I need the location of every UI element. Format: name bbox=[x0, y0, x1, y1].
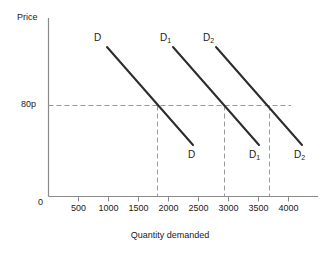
demand-curve-chart: Price 80p 0 500 1000 1500 2000 2500 3000… bbox=[0, 0, 330, 254]
demand-curve-d1 bbox=[173, 47, 259, 145]
curve-label-d-bottom-text: D bbox=[188, 149, 195, 160]
x-tick-label-2000: 2000 bbox=[154, 204, 183, 213]
curve-label-d1-top-sub: 1 bbox=[167, 37, 171, 44]
y-tick-label-80p: 80p bbox=[21, 100, 36, 109]
demand-curve-d2 bbox=[216, 47, 302, 145]
x-tick-label-3500: 3500 bbox=[244, 204, 273, 213]
curve-label-d2-bottom: D2 bbox=[294, 150, 305, 160]
curve-label-d2-top-sub: 2 bbox=[210, 37, 214, 44]
x-tick-label-1000: 1000 bbox=[94, 204, 123, 213]
curve-label-d-bottom: D bbox=[188, 150, 195, 160]
curve-label-d2-bottom-sub: 2 bbox=[301, 154, 305, 161]
y-axis-title: Price bbox=[17, 13, 38, 22]
curve-label-d1-bottom: D1 bbox=[249, 150, 260, 160]
x-tick-label-1500: 1500 bbox=[124, 204, 153, 213]
curve-label-d2-top: D2 bbox=[203, 33, 214, 43]
x-tick-label-3000: 3000 bbox=[214, 204, 243, 213]
curve-label-d1-top: D1 bbox=[160, 33, 171, 43]
x-tick-label-4000: 4000 bbox=[274, 204, 303, 213]
x-axis-ticks bbox=[79, 197, 289, 202]
curve-label-d-top-text: D bbox=[94, 32, 101, 43]
curve-label-d-top: D bbox=[94, 33, 101, 43]
origin-label: 0 bbox=[38, 198, 43, 207]
curve-label-d1-bottom-sub: 1 bbox=[256, 154, 260, 161]
demand-curve-d bbox=[107, 47, 193, 145]
x-tick-label-2500: 2500 bbox=[184, 204, 213, 213]
x-tick-label-500: 500 bbox=[64, 204, 93, 213]
x-axis-title: Quantity demanded bbox=[120, 231, 220, 240]
